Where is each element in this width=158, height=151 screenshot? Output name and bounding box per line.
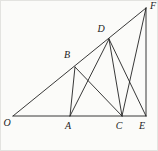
segment-DE xyxy=(109,39,146,116)
point-label-E: E xyxy=(138,120,145,131)
geometry-figure: OACEBDF xyxy=(1,1,158,151)
point-label-F: F xyxy=(149,1,157,11)
point-label-A: A xyxy=(64,120,72,131)
segment-AD xyxy=(70,39,109,116)
point-label-O: O xyxy=(3,117,10,128)
point-label-D: D xyxy=(96,23,105,34)
segment-AB xyxy=(70,67,75,116)
point-label-C: C xyxy=(116,120,123,131)
point-label-B: B xyxy=(64,49,70,60)
geometry-figure-canvas: OACEBDF xyxy=(0,0,158,151)
